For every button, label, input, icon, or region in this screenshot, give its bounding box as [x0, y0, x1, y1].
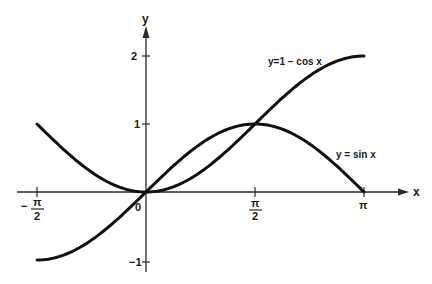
- curve-label-one-minus-cos: y=1 − cos x: [268, 56, 322, 67]
- x-axis-arrow-icon: [398, 189, 409, 196]
- x-axis-label: x: [413, 185, 420, 199]
- x-tick-label-neg-sign: −: [21, 200, 27, 212]
- x-tick-label-pi-half-den: 2: [252, 210, 258, 222]
- x-tick-label-neg-den: 2: [34, 210, 40, 222]
- x-tick-label-pi: π: [359, 199, 368, 211]
- function-plot: x y 2 1 −1 − π 2 0 π 2 π y=1 − cos x y =…: [0, 0, 432, 284]
- y-axis-arrow-icon: [143, 26, 150, 38]
- y-tick-label-2: 2: [131, 50, 137, 62]
- y-tick-label-1: 1: [134, 118, 140, 130]
- curve-one-minus-cos: [37, 56, 364, 192]
- x-tick-label-pi-half-num: π: [251, 197, 260, 209]
- y-tick-label-minus-1: −1: [129, 256, 142, 268]
- curve-label-sin: y = sin x: [336, 149, 376, 160]
- y-axis-label: y: [142, 12, 149, 26]
- x-tick-label-neg-pi: π: [33, 196, 42, 208]
